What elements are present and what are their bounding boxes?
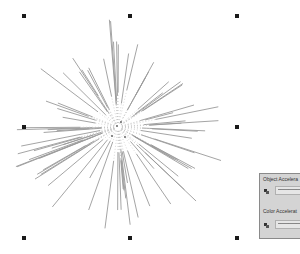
blend-acceleration-panel: Object Accelera ' ' ' Color Accelerat ' … — [259, 173, 300, 239]
slider-ticks: ' ' ' — [280, 188, 300, 193]
blend-line — [135, 93, 163, 114]
blend-line — [73, 58, 109, 113]
selection-handle[interactable] — [22, 14, 26, 18]
color-acceleration-label: Color Accelerat — [263, 208, 297, 214]
selection-handle[interactable] — [235, 14, 239, 18]
blend-line — [111, 21, 117, 104]
blend-line — [89, 68, 110, 110]
blend-line — [145, 153, 184, 190]
blend-line — [43, 146, 85, 170]
blend-line — [123, 151, 138, 217]
blend-line — [90, 141, 111, 178]
object-acceleration-label: Object Accelera — [263, 176, 298, 182]
blend-line — [117, 42, 118, 96]
blend-line — [121, 54, 128, 104]
blend-line — [63, 117, 96, 123]
color-acceleration-slider[interactable]: ' ' ' — [275, 220, 300, 229]
blend-line — [143, 85, 182, 111]
blend-line — [89, 142, 113, 210]
blend-line — [41, 69, 98, 112]
selection-handle[interactable] — [235, 125, 239, 129]
blend-line — [46, 101, 89, 116]
selection-handle[interactable] — [22, 125, 26, 129]
blend-line — [105, 161, 114, 228]
link-acceleration-icon[interactable] — [264, 189, 269, 194]
blend-line — [128, 151, 150, 206]
selection-handle[interactable] — [235, 236, 239, 240]
selection-handle[interactable] — [128, 236, 132, 240]
object-acceleration-slider[interactable]: ' ' ' — [275, 186, 300, 195]
blend-line — [88, 70, 108, 107]
blend-line — [138, 82, 169, 109]
blend-line — [127, 44, 138, 90]
blend-line — [142, 128, 205, 131]
drawing-canvas[interactable] — [0, 0, 300, 254]
blend-line — [104, 59, 112, 97]
link-acceleration-icon[interactable] — [264, 223, 269, 228]
selection-handle[interactable] — [22, 236, 26, 240]
selection-handle[interactable] — [128, 14, 132, 18]
blend-line — [155, 139, 221, 161]
slider-ticks: ' ' ' — [280, 222, 300, 227]
blend-line — [136, 154, 170, 204]
